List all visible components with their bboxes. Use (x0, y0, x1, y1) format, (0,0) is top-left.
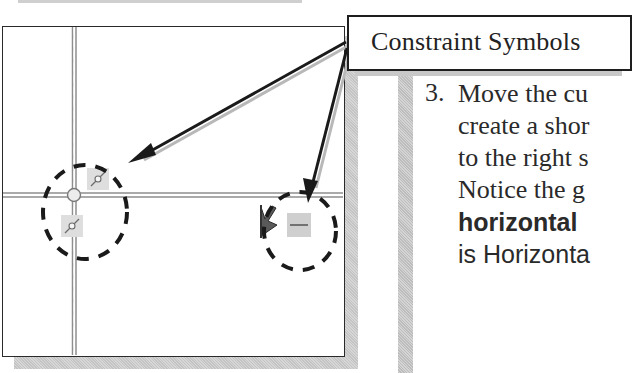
instruction-line-5-bold: horizontal (458, 206, 577, 238)
callout-label: Constraint Symbols (371, 27, 580, 57)
origin-point[interactable] (68, 189, 81, 202)
step-number: 3. (425, 78, 445, 108)
horizontal-construction-line (3, 193, 343, 197)
left-highlight-circle (43, 165, 127, 259)
callout-arrow-right (303, 48, 351, 203)
instruction-line-6: is Horizonta (458, 238, 590, 270)
instruction-line-3: to the right s (458, 142, 589, 174)
coincident-icon-lower[interactable] (61, 215, 83, 237)
horizontal-constraint-icon[interactable] (287, 213, 311, 237)
instruction-line-4: Notice the g (458, 174, 585, 206)
instruction-line-1: Move the cu (458, 78, 588, 110)
callout-shadow (355, 71, 622, 76)
constraint-symbols-callout: Constraint Symbols (347, 15, 632, 71)
instruction-line-2: create a shor (458, 110, 589, 142)
callout-arrow-left (128, 42, 348, 163)
